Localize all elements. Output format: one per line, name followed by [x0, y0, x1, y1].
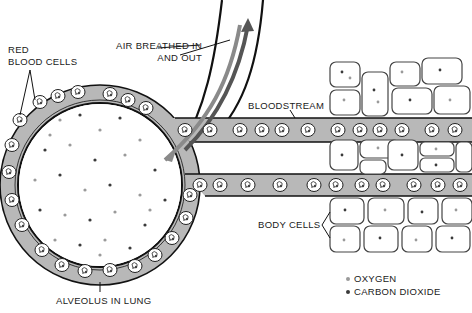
- carbon-dioxide-dot-icon: [346, 290, 350, 294]
- label-bloodstream: BLOODSTREAM: [248, 100, 324, 112]
- label-alveolus: ALVEOLUS IN LUNG: [56, 295, 151, 307]
- label-line-1: AIR BREATHED IN: [116, 40, 202, 52]
- label-body-cells: BODY CELLS: [258, 219, 321, 231]
- label-line-2: AND OUT: [116, 52, 202, 64]
- legend-item-carbon-dioxide: CARBON DIOXIDE: [346, 285, 441, 298]
- label-red-blood-cells: RED BLOOD CELLS: [8, 44, 77, 68]
- oxygen-dot-icon: [346, 277, 350, 281]
- legend-label: CARBON DIOXIDE: [354, 285, 441, 298]
- label-air-breathed: AIR BREATHED IN AND OUT: [116, 40, 202, 64]
- airway-wall-right: [215, 0, 263, 135]
- label-line-1: RED: [8, 44, 77, 56]
- legend-item-oxygen: OXYGEN: [346, 272, 441, 285]
- legend: OXYGEN CARBON DIOXIDE: [346, 272, 441, 298]
- label-line-2: BLOOD CELLS: [8, 56, 77, 68]
- legend-label: OXYGEN: [354, 272, 396, 285]
